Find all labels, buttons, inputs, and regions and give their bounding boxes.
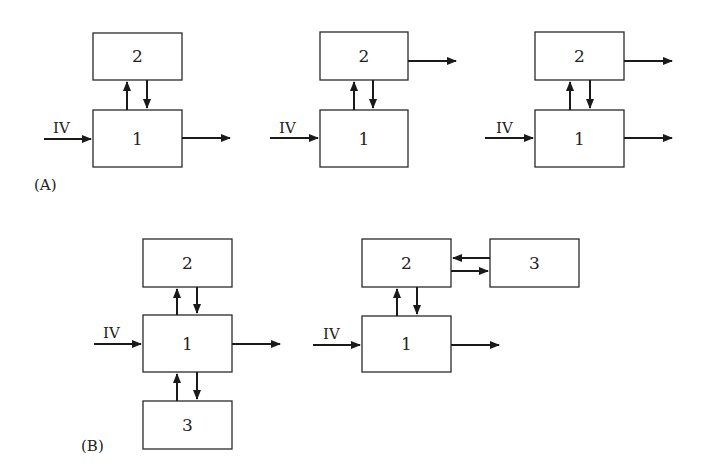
compartment-1-label: 1 (132, 129, 143, 149)
compartment-3-label: 3 (182, 415, 193, 435)
compartment-1-label: 1 (182, 334, 193, 354)
panel-a-caption: (A) (34, 176, 57, 194)
compartment-2-label: 2 (132, 46, 143, 66)
diagram-a3: 2 1 IV (485, 32, 672, 167)
panel-b-caption: (B) (81, 437, 104, 455)
compartment-2-label: 2 (401, 253, 412, 273)
compartment-1-label: 1 (401, 334, 412, 354)
compartment-2-label: 2 (359, 46, 370, 66)
compartment-models-figure: 2 1 IV (A) 2 1 IV 2 1 IV 2 1 (0, 0, 707, 470)
compartment-1-label: 1 (574, 129, 585, 149)
iv-label: IV (103, 324, 121, 342)
iv-label: IV (279, 119, 297, 137)
diagram-a2: 2 1 IV (270, 32, 456, 167)
compartment-3-label: 3 (529, 253, 540, 273)
compartment-1-label: 1 (359, 129, 370, 149)
compartment-2-label: 2 (574, 46, 585, 66)
compartment-2-label: 2 (182, 253, 193, 273)
iv-label: IV (53, 119, 71, 137)
diagram-a1: 2 1 IV (44, 33, 230, 167)
iv-label: IV (323, 325, 341, 343)
iv-label: IV (496, 119, 514, 137)
diagram-b2: 2 3 1 IV (313, 239, 579, 372)
diagram-b1: 2 1 3 IV (94, 239, 280, 449)
